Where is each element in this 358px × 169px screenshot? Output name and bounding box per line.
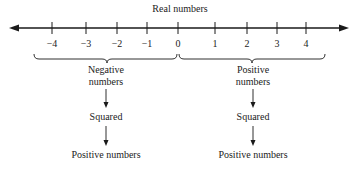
- positive-label-line1: Positive: [213, 64, 293, 76]
- number-line-diagram: [0, 0, 358, 169]
- tick-label: 4: [296, 38, 316, 50]
- tick-label: −2: [107, 38, 127, 50]
- tick-label: −3: [76, 38, 96, 50]
- arrowhead-icon: [251, 140, 256, 146]
- tick-label: 0: [168, 38, 188, 50]
- tick-label: −1: [137, 38, 157, 50]
- arrowhead-icon: [104, 102, 109, 108]
- negative-label-line2: numbers: [66, 76, 146, 88]
- arrowhead-icon: [251, 102, 256, 108]
- right-squared-label: Squared: [213, 111, 293, 123]
- positive-brace: [179, 54, 325, 63]
- positive-numbers-label: Positive numbers: [213, 64, 293, 88]
- negative-label-line1: Negative: [66, 64, 146, 76]
- right-result-label: Positive numbers: [203, 149, 303, 161]
- negative-numbers-label: Negative numbers: [66, 64, 146, 88]
- tick-label: 1: [205, 38, 225, 50]
- negative-brace: [34, 54, 177, 63]
- diagram-title: Real numbers: [140, 3, 220, 15]
- arrowhead-icon: [104, 140, 109, 146]
- tick-label: −4: [42, 38, 62, 50]
- positive-label-line2: numbers: [213, 76, 293, 88]
- tick-label: 3: [267, 38, 287, 50]
- left-result-label: Positive numbers: [56, 149, 156, 161]
- tick-label: 2: [237, 38, 257, 50]
- right-arrowhead-icon: [339, 25, 349, 32]
- left-squared-label: Squared: [66, 111, 146, 123]
- left-arrowhead-icon: [9, 25, 19, 32]
